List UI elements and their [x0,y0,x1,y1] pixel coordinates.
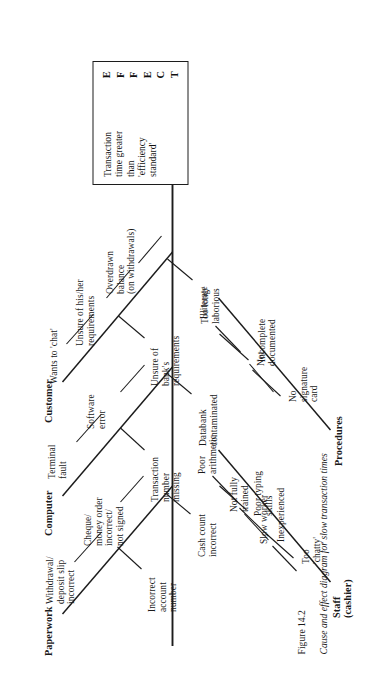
cause-incorrect-account: Incorrect account number [146,577,178,612]
cause-poor-typing: Poor typing skills [252,471,273,516]
effect-box: Transaction time greater than 'efficienc… [92,61,188,185]
cause-not-fully-trained: Not fully trained [228,477,249,512]
twig-software [120,365,144,392]
figure-caption: Figure 14.2 Cause and effect diagram for… [285,453,340,664]
cause-transaction-number: Transaction number missing [149,457,181,502]
cause-terminal-fault: Terminal fault [46,444,67,479]
twig-illiterate [167,259,192,280]
twig-too-long [215,326,240,352]
cause-unsure-hisher: Unsure of his/her requirements [74,279,95,346]
figure-caption-text: Cause and effect diagram for slow transa… [318,453,329,654]
effect-letter-e1: E [101,71,111,79]
cause-poor-arithmetic: Poor arithmetic [196,435,217,474]
effect-acronym: E F F E C T [101,71,182,79]
cause-software-error: Software error [85,394,106,429]
cause-cash-count: Cash count incorrect [196,514,217,557]
effect-letter-t: T [169,71,179,79]
effect-letter-e2: E [142,71,152,79]
figure-page: Transaction time greater than 'efficienc… [0,0,387,682]
twig-incorrect-account [117,547,141,569]
effect-letter-c: C [155,71,165,79]
figure-caption-spacer [307,650,318,655]
twig-no-signature [252,370,280,396]
cause-not-documented: Not documented [255,319,276,366]
twig-overdrawn [138,236,161,263]
twig-not-documented [219,334,248,360]
category-computer: Computer [42,490,53,536]
cause-withdrawal-slip: Withdrawal/ deposit slip incorrect [44,556,76,604]
cause-no-signature: No signature card [287,367,319,402]
cause-inexperienced: Inexperienced [275,488,286,542]
effect-letter-f1: F [115,71,125,79]
effect-text: Transaction time greater than 'efficienc… [101,131,158,177]
cause-unsure-bank: Unsure of bank's requirements [149,336,181,386]
figure-number: Figure 14.2 [296,610,307,654]
cause-overdrawn: Overdrawn balance (on withdrawals) [104,229,136,294]
effect-letter-f2: F [128,71,138,79]
cause-cheque: Cheque/ money order incorrect/ not signe… [82,497,124,546]
twig-transaction-number [120,428,144,450]
twig-unsure-bank [118,316,144,338]
cause-wants-chat: Wants to 'chat' [48,328,59,384]
category-paperwork: Paperwork [42,606,53,656]
cause-too-long: Too long/ laborious [199,287,220,324]
category-customer: Customer [42,379,53,423]
